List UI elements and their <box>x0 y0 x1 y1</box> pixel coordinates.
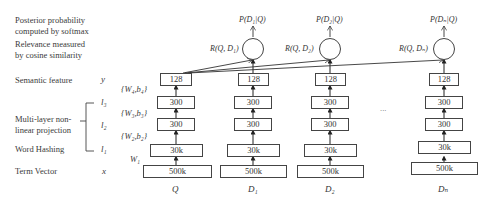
d2-cosine-node <box>319 38 341 60</box>
q-layer-300-a: 300 <box>157 96 195 109</box>
d2-posterior: P(D₂|Q) <box>316 15 343 24</box>
d1-layer-500k: 500k <box>220 165 287 178</box>
d2-layer-300-b: 300 <box>311 118 349 131</box>
d1-cosine-node <box>242 38 264 60</box>
d1-posterior: P(D₁|Q) <box>239 15 266 24</box>
d2-layer-500k: 500k <box>297 165 364 178</box>
d1-relevance: R(Q, D₁) <box>210 44 239 53</box>
d2-column-label: D₂ <box>325 184 335 194</box>
q-layer-128: 128 <box>160 73 192 86</box>
d2-layer-300-a: 300 <box>311 96 349 109</box>
q-column-label: Q <box>172 184 179 194</box>
dn-layer-300-a: 300 <box>425 96 463 109</box>
dn-posterior: P(Dₙ|Q) <box>430 15 457 24</box>
dn-layer-300-b: 300 <box>425 118 463 131</box>
dn-layer-30k: 30k <box>418 141 471 154</box>
d1-layer-300-a: 300 <box>234 96 272 109</box>
d1-layer-300-b: 300 <box>234 118 272 131</box>
d1-layer-30k: 30k <box>227 144 280 157</box>
d2-layer-30k: 30k <box>304 144 357 157</box>
q-layer-500k: 500k <box>143 165 212 178</box>
dn-layer-128: 128 <box>429 73 459 86</box>
q-layer-30k: 30k <box>150 144 203 157</box>
dn-column-label: Dₙ <box>438 184 448 194</box>
dn-layer-500k: 500k <box>411 162 478 175</box>
ellipsis: ... <box>380 103 386 114</box>
d1-layer-128: 128 <box>238 73 269 86</box>
d1-column-label: D₁ <box>248 184 258 194</box>
q-layer-300-b: 300 <box>157 118 195 131</box>
d2-layer-128: 128 <box>315 73 346 86</box>
dn-cosine-node <box>433 38 455 60</box>
dn-relevance: R(Q, Dₙ) <box>399 44 428 53</box>
d2-relevance: R(Q, D₂) <box>285 44 314 53</box>
